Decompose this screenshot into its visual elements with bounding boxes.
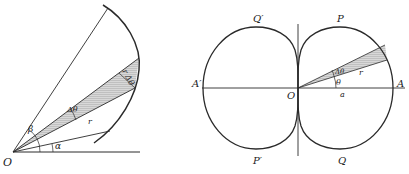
label-P-prime: P′: [252, 155, 263, 166]
label-radius: r: [359, 68, 364, 77]
label-alpha: α: [55, 141, 61, 151]
label-delta-theta: Δθ: [66, 105, 78, 114]
label-a: a: [340, 90, 345, 99]
label-A-prime: A′: [191, 78, 202, 89]
label-theta: θ: [336, 78, 341, 87]
label-delta-theta: Δθ: [334, 68, 345, 76]
label-P: P: [336, 13, 344, 24]
diagram-canvas: O β α Δθ r r Δθ O A A′ P Q′ P′ Q θ Δθ r …: [0, 0, 409, 174]
label-A: A: [396, 78, 404, 89]
label-radius: r: [88, 117, 93, 126]
label-Q-prime: Q′: [253, 13, 264, 24]
wedge-lower-edge: [13, 88, 135, 152]
right-figure: O A A′ P Q′ P′ Q θ Δθ r a: [191, 13, 405, 166]
label-beta: β: [27, 124, 33, 134]
label-origin: O: [3, 156, 12, 169]
label-Q: Q: [338, 155, 346, 166]
alpha-angle-arc: [52, 144, 53, 152]
left-figure: O β α Δθ r r Δθ: [3, 5, 140, 169]
label-origin: O: [287, 90, 295, 101]
wedge-upper-edge: [298, 45, 385, 88]
